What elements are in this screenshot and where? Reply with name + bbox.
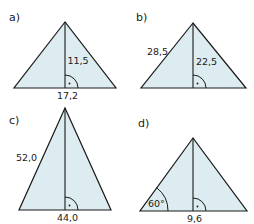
figure-a: a) 11,5 17,2 bbox=[9, 11, 116, 101]
figure-c-label: c) bbox=[9, 114, 19, 127]
right-angle-dot-a bbox=[69, 83, 71, 85]
base-label-d: 9,6 bbox=[187, 213, 202, 224]
right-angle-dot-d bbox=[197, 206, 199, 208]
side-label-c: 52,0 bbox=[16, 152, 37, 163]
figure-d-label: d) bbox=[138, 117, 149, 130]
base-label-c: 44,0 bbox=[57, 212, 78, 223]
right-angle-dot-c bbox=[69, 205, 71, 207]
base-label-a: 17,2 bbox=[57, 90, 78, 101]
figure-b: b) 28,5 22,5 bbox=[136, 11, 246, 88]
right-angle-dot-b bbox=[197, 83, 199, 85]
angle-label-d: 60° bbox=[148, 198, 165, 209]
height-label-a: 11,5 bbox=[68, 55, 89, 66]
triangle-diagrams: a) 11,5 17,2 b) 28,5 22,5 c) 52,0 44,0 d… bbox=[0, 0, 254, 224]
figure-d: d) 60° 9,6 bbox=[138, 117, 247, 224]
figure-b-label: b) bbox=[136, 11, 147, 24]
figure-c: c) 52,0 44,0 bbox=[9, 108, 111, 223]
side-label-b: 28,5 bbox=[147, 46, 168, 57]
figure-a-label: a) bbox=[9, 11, 20, 24]
height-label-b: 22,5 bbox=[196, 56, 217, 67]
